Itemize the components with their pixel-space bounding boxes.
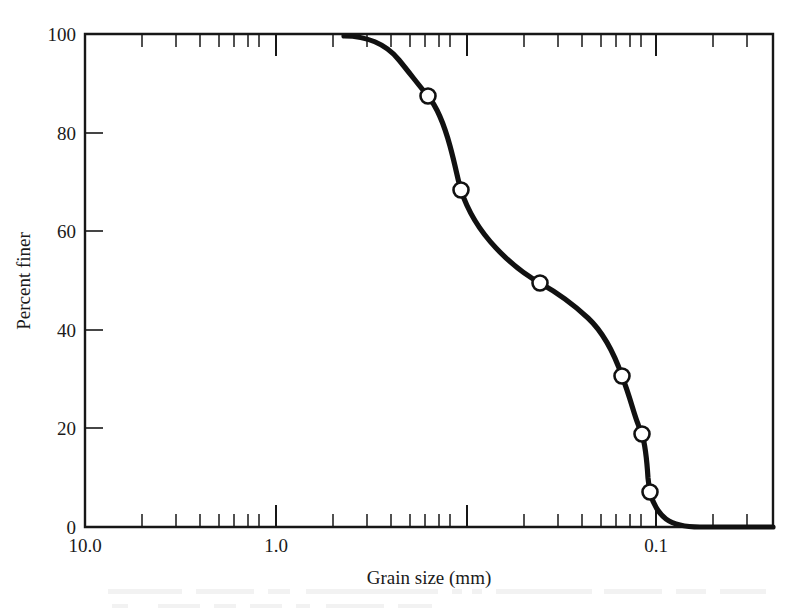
figure-root: 10.0 1.0 0.1 0 20 40 60 80 100 Grain siz…	[0, 0, 799, 615]
y-tick-label-20: 20	[57, 418, 76, 439]
data-point-markers	[421, 89, 658, 500]
x-tick-labels: 10.0 1.0 0.1	[68, 535, 668, 556]
grain-size-distribution-chart: 10.0 1.0 0.1 0 20 40 60 80 100 Grain siz…	[0, 0, 799, 615]
distribution-curve	[344, 36, 773, 527]
plot-frame	[85, 34, 773, 527]
x-tick-label-1: 1.0	[264, 535, 288, 556]
data-point-marker	[533, 276, 548, 291]
data-point-marker	[421, 89, 436, 104]
y-tick-label-40: 40	[57, 320, 76, 341]
data-point-marker	[643, 485, 658, 500]
x-axis-ticks-top	[142, 34, 747, 56]
y-axis-ticks	[85, 133, 103, 428]
y-axis-title: Percent finer	[13, 232, 34, 330]
series-grain-size-distribution	[344, 36, 773, 527]
y-tick-label-100: 100	[48, 24, 77, 45]
y-tick-label-80: 80	[57, 123, 76, 144]
data-point-marker	[615, 369, 630, 384]
x-tick-label-0_1: 0.1	[644, 535, 668, 556]
x-axis-title: Grain size (mm)	[367, 567, 492, 589]
y-tick-label-60: 60	[57, 221, 76, 242]
data-point-marker	[454, 183, 469, 198]
x-tick-label-10: 10.0	[68, 535, 101, 556]
y-tick-label-0: 0	[67, 517, 77, 538]
x-axis-ticks-bottom	[85, 505, 747, 527]
scan-artifacts	[108, 589, 766, 608]
y-tick-labels: 0 20 40 60 80 100	[48, 24, 77, 538]
data-point-marker	[635, 427, 650, 442]
